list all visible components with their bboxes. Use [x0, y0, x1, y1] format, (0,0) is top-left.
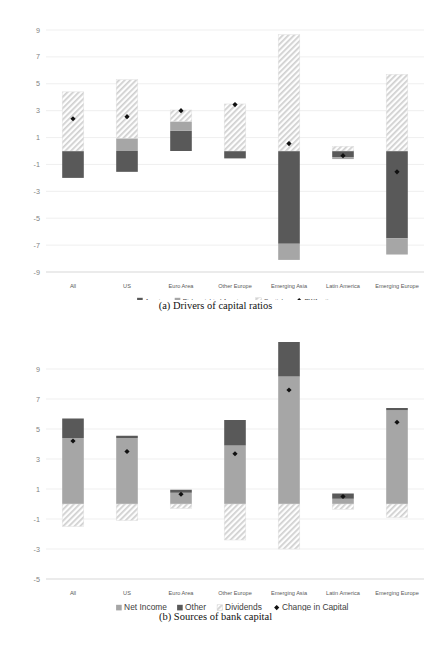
legend-label: RWA ratio [304, 297, 332, 300]
legend-swatch-3 [297, 298, 302, 300]
x-category-label: All [70, 283, 76, 289]
bar-segment-other [386, 408, 408, 410]
legend-swatch-0 [137, 298, 143, 300]
y-tick-label: -3 [34, 187, 40, 196]
bar-segment-dividends [116, 504, 138, 521]
bar-segment-rwa [116, 138, 138, 151]
y-tick-label: 9 [36, 365, 40, 374]
y-tick-label: 7 [36, 395, 40, 404]
legend-label: Other [185, 602, 206, 611]
y-tick-label: -5 [34, 575, 40, 584]
bar-segment-net_income [62, 438, 84, 504]
panel-a: 97531-1-3-5-7-9AllUSEuro AreaOther Europ… [0, 0, 431, 311]
y-tick-label: -9 [34, 268, 40, 277]
legend-swatch-2 [217, 605, 223, 611]
x-category-label: Latin America [326, 590, 361, 596]
legend-label: Dividends [225, 602, 262, 611]
x-category-label: Other Europe [218, 283, 252, 289]
y-tick-label: -5 [34, 214, 40, 223]
x-category-label: Emerging Europe [375, 590, 419, 596]
legend-swatch-3 [274, 605, 279, 610]
y-tick-label: -7 [34, 241, 40, 250]
bar-segment-dividends [386, 504, 408, 518]
x-category-label: Emerging Asia [271, 590, 308, 596]
y-tick-label: 5 [36, 79, 40, 88]
bar-segment-rwa [278, 244, 300, 260]
legend-label: Assets [145, 297, 164, 300]
bar-segment-other [224, 420, 246, 446]
bar-segment-dividends [62, 504, 84, 527]
bar-segment-assets [62, 151, 84, 178]
legend-label: Change in Capital [282, 602, 349, 611]
y-tick-label: 3 [36, 106, 40, 115]
figure: 97531-1-3-5-7-9AllUSEuro AreaOther Europ… [0, 0, 431, 622]
x-category-label: US [123, 283, 131, 289]
panel-b: 97531-1-3-5AllUSEuro AreaOther EuropeEme… [0, 311, 431, 622]
bar-segment-dividends [170, 504, 192, 509]
bar-segment-capital [224, 104, 246, 151]
legend-label: Net Income [124, 602, 167, 611]
bar-segment-net_income [332, 499, 354, 504]
bar-segment-capital [62, 92, 84, 151]
legend-swatch-0 [116, 605, 122, 611]
chart-a-svg: 97531-1-3-5-7-9AllUSEuro AreaOther Europ… [0, 0, 431, 300]
y-tick-label: -1 [34, 160, 40, 169]
x-category-label: Emerging Europe [375, 283, 419, 289]
bar-segment-rwa [170, 121, 192, 130]
x-category-label: Euro Area [169, 283, 195, 289]
bar-segment-rwa [386, 238, 408, 254]
y-tick-label: 7 [36, 52, 40, 61]
y-tick-label: 5 [36, 425, 40, 434]
y-tick-label: -3 [34, 545, 40, 554]
bar-segment-capital [116, 80, 138, 138]
bar-segment-capital [386, 74, 408, 151]
x-category-label: Emerging Asia [271, 283, 308, 289]
bar-segment-capital [332, 146, 354, 151]
chart-a-plot: 97531-1-3-5-7-9AllUSEuro AreaOther Europ… [0, 0, 431, 300]
x-category-label: Latin America [326, 283, 361, 289]
bar-segment-other [62, 419, 84, 439]
bar-segment-other [278, 342, 300, 377]
legend-label: Captial [264, 297, 283, 300]
bar-segment-assets [386, 151, 408, 238]
bar-segment-assets [278, 151, 300, 244]
x-category-label: All [70, 590, 76, 596]
chart-b-plot: 97531-1-3-5AllUSEuro AreaOther EuropeEme… [0, 311, 431, 611]
y-tick-label: 9 [36, 26, 40, 35]
bar-segment-dividends [224, 504, 246, 540]
caption-b: (b) Sources of bank capital [0, 611, 431, 622]
bar-segment-dividends [278, 504, 300, 549]
x-category-label: Euro Area [169, 590, 195, 596]
y-tick-label: 1 [36, 133, 40, 142]
bar-segment-dividends [332, 504, 354, 509]
legend-label: Risk-weighted Assets [183, 297, 242, 300]
bar-segment-net_income [278, 377, 300, 505]
bar-segment-other [116, 436, 138, 438]
chart-b-svg: 97531-1-3-5AllUSEuro AreaOther EuropeEme… [0, 311, 431, 611]
bar-segment-net_income [116, 438, 138, 504]
legend-swatch-2 [256, 298, 262, 300]
y-tick-label: 3 [36, 455, 40, 464]
y-tick-label: 1 [36, 485, 40, 494]
bar-segment-assets [170, 131, 192, 151]
legend-swatch-1 [175, 298, 181, 300]
caption-a: (a) Drivers of capital ratios [0, 300, 431, 311]
y-tick-label: -1 [34, 515, 40, 524]
x-category-label: US [123, 590, 131, 596]
bar-segment-capital [278, 35, 300, 151]
x-category-label: Other Europe [218, 590, 252, 596]
legend-swatch-1 [177, 605, 183, 611]
bar-segment-assets [224, 151, 246, 158]
bar-segment-assets [116, 151, 138, 172]
